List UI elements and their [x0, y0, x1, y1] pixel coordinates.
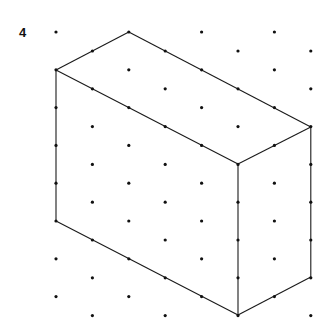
- grid-dot: [127, 106, 130, 109]
- grid-dot: [309, 238, 312, 241]
- grid-dot: [164, 125, 167, 128]
- grid-dot: [91, 125, 94, 128]
- grid-dot: [91, 314, 94, 317]
- grid-dot: [236, 87, 239, 90]
- grid-dot: [236, 276, 239, 279]
- grid-dot: [54, 219, 57, 222]
- grid-dot: [127, 144, 130, 147]
- prism-edge: [56, 70, 238, 164]
- grid-dot: [54, 144, 57, 147]
- grid-dot: [200, 257, 203, 260]
- grid-dot: [200, 144, 203, 147]
- grid-dot: [164, 276, 167, 279]
- grid-dot: [91, 201, 94, 204]
- grid-dot: [200, 68, 203, 71]
- grid-dot: [91, 276, 94, 279]
- isometric-dot-diagram: 4: [0, 0, 326, 325]
- grid-dot: [236, 238, 239, 241]
- grid-dot: [200, 182, 203, 185]
- grid-dot: [54, 106, 57, 109]
- grid-dot: [236, 125, 239, 128]
- grid-dot: [164, 49, 167, 52]
- grid-dot: [236, 49, 239, 52]
- grid-dot: [91, 49, 94, 52]
- problem-number: 4: [19, 25, 27, 40]
- grid-dot: [127, 30, 130, 33]
- grid-dot: [54, 257, 57, 260]
- grid-dot: [200, 30, 203, 33]
- grid-dot: [164, 314, 167, 317]
- grid-dot: [164, 238, 167, 241]
- grid-dot: [54, 182, 57, 185]
- grid-dot: [273, 106, 276, 109]
- grid-dot: [309, 314, 312, 317]
- grid-dot: [309, 125, 312, 128]
- grid-dot: [127, 219, 130, 222]
- grid-dot: [273, 182, 276, 185]
- dot-grid: [54, 30, 312, 317]
- prism-edges: [56, 32, 311, 315]
- grid-dot: [236, 314, 239, 317]
- grid-dot: [91, 238, 94, 241]
- grid-dot: [200, 106, 203, 109]
- grid-dot: [127, 182, 130, 185]
- grid-dot: [236, 201, 239, 204]
- grid-dot: [309, 49, 312, 52]
- grid-dot: [54, 68, 57, 71]
- grid-dot: [236, 163, 239, 166]
- grid-dot: [200, 295, 203, 298]
- grid-dot: [164, 163, 167, 166]
- grid-dot: [127, 257, 130, 260]
- grid-dot: [273, 219, 276, 222]
- grid-dot: [309, 87, 312, 90]
- grid-dot: [200, 219, 203, 222]
- grid-dot: [273, 30, 276, 33]
- grid-dot: [309, 201, 312, 204]
- grid-dot: [309, 276, 312, 279]
- grid-dot: [91, 163, 94, 166]
- grid-dot: [164, 87, 167, 90]
- grid-dot: [54, 295, 57, 298]
- grid-dot: [309, 163, 312, 166]
- grid-dot: [164, 201, 167, 204]
- grid-dot: [91, 87, 94, 90]
- grid-dot: [273, 295, 276, 298]
- grid-dot: [273, 257, 276, 260]
- prism-edge: [129, 32, 311, 127]
- grid-dot: [127, 68, 130, 71]
- grid-dot: [54, 30, 57, 33]
- grid-dot: [127, 295, 130, 298]
- prism-edge: [56, 221, 238, 315]
- grid-dot: [273, 144, 276, 147]
- grid-dot: [273, 68, 276, 71]
